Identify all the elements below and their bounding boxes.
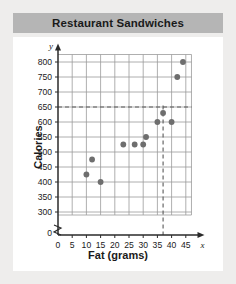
svg-text:0: 0: [47, 228, 52, 238]
scatter-plot-svg: 3003504004505005506006507007508000051015…: [13, 37, 223, 271]
scatter-plot-card: 3003504004505005506006507007508000051015…: [13, 37, 223, 271]
data-point: [155, 119, 161, 125]
y-axis-title: Calories: [32, 102, 44, 192]
data-point: [174, 74, 180, 80]
data-point: [98, 179, 104, 185]
svg-text:350: 350: [38, 192, 53, 202]
data-point: [89, 157, 95, 163]
chart-page: Restaurant Sandwiches 300350400450500550…: [0, 0, 236, 284]
data-point: [120, 142, 126, 148]
svg-text:700: 700: [38, 87, 53, 97]
data-point: [132, 142, 138, 148]
data-point: [180, 59, 186, 65]
x-axis-title: Fat (grams): [13, 249, 223, 261]
grid-lines: [58, 55, 191, 216]
svg-text:300: 300: [38, 207, 53, 217]
data-point: [143, 134, 149, 140]
page-title: Restaurant Sandwiches: [52, 17, 184, 29]
data-point: [160, 110, 166, 116]
svg-text:y: y: [48, 41, 53, 51]
chart-title-bar: Restaurant Sandwiches: [13, 13, 223, 33]
data-point: [169, 119, 175, 125]
data-point: [140, 142, 146, 148]
svg-text:800: 800: [38, 57, 53, 67]
data-point: [84, 172, 90, 178]
svg-text:750: 750: [38, 72, 53, 82]
